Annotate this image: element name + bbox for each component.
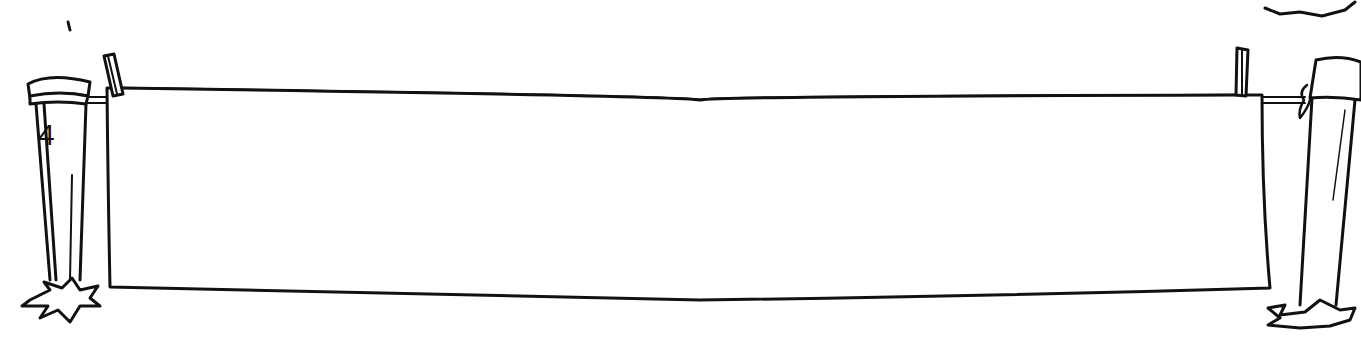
grass-icon: [22, 278, 100, 322]
grass-icon: [1268, 300, 1355, 328]
left-post-icon: [22, 22, 110, 322]
clothesline-illustration: [0, 0, 1361, 351]
post-number-label: 4: [38, 118, 55, 152]
clothespin-icon: [1236, 48, 1248, 96]
banner-sheet: [107, 88, 1270, 300]
right-post-icon: [1268, 57, 1361, 328]
grass-icon: [1265, 2, 1355, 16]
